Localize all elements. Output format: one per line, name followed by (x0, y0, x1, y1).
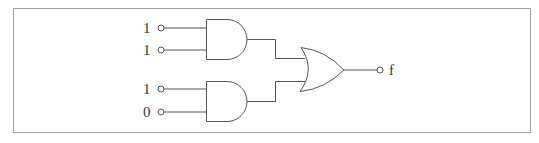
input-terminal-2 (158, 47, 164, 53)
input-terminal-1 (158, 25, 164, 31)
input-label-2: 1 (143, 42, 151, 58)
input-label-4: 0 (143, 104, 151, 120)
input-terminal-3 (158, 86, 164, 92)
and-gate-2 (207, 82, 248, 122)
input-label-1: 1 (143, 20, 151, 36)
input-label-3: 1 (143, 81, 151, 97)
or-gate (300, 48, 344, 92)
wire-and1-to-or (247, 40, 305, 59)
diagram-frame (14, 9, 531, 133)
logic-circuit-diagram: 1 1 1 0 f (0, 0, 539, 143)
output-terminal (377, 67, 383, 73)
input-terminal-4 (158, 109, 164, 115)
and-gate-1 (207, 20, 248, 60)
wire-and2-to-or (247, 82, 305, 102)
output-label-f: f (389, 62, 394, 78)
